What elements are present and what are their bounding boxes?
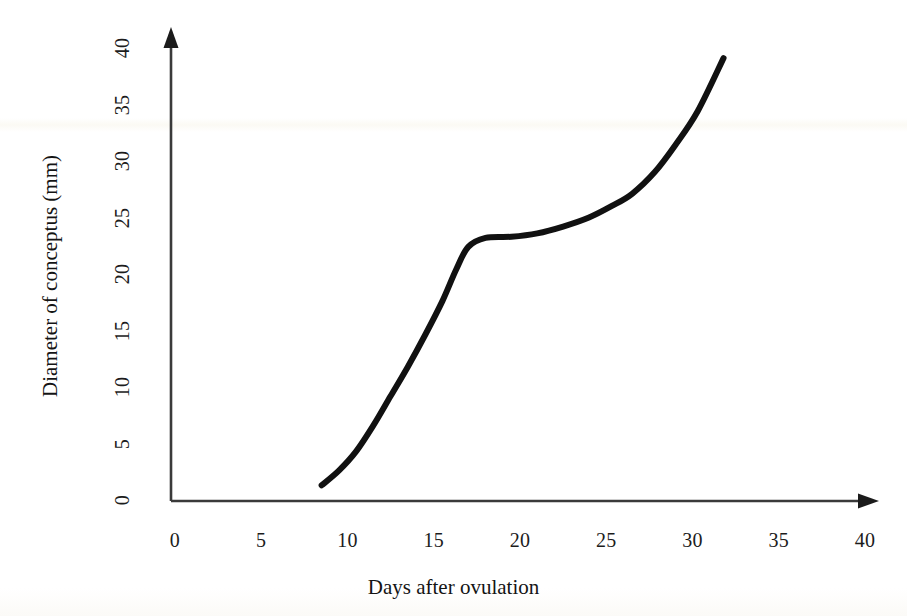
x-tick-label: 20 — [510, 530, 531, 550]
y-tick-label: 10 — [112, 367, 132, 407]
y-tick-label: 5 — [112, 424, 132, 464]
plot-area — [0, 0, 907, 616]
x-tick-label: 35 — [768, 530, 789, 550]
data-series-line — [322, 58, 724, 485]
x-tick-label: 10 — [337, 530, 358, 550]
y-tick-label: 40 — [112, 28, 132, 68]
arrow-right-icon — [858, 494, 879, 509]
x-axis-title: Days after ovulation — [0, 575, 907, 600]
x-tick-label: 0 — [170, 530, 180, 550]
y-axis-title: Diameter of conceptus (mm) — [38, 155, 63, 397]
y-tick-label: 25 — [112, 198, 132, 238]
y-tick-label: 0 — [112, 480, 132, 520]
x-tick-label: 30 — [682, 530, 703, 550]
y-tick-label: 20 — [112, 254, 132, 294]
y-tick-label: 15 — [112, 311, 132, 351]
x-tick-label: 40 — [855, 530, 876, 550]
chart-figure: 0510152025303540 0510152025303540 Days a… — [0, 0, 907, 616]
x-tick-label: 25 — [596, 530, 617, 550]
x-tick-label: 5 — [256, 530, 266, 550]
y-tick-label: 35 — [112, 85, 132, 125]
arrow-up-icon — [164, 27, 179, 48]
x-tick-label: 15 — [423, 530, 444, 550]
y-tick-label: 30 — [112, 141, 132, 181]
